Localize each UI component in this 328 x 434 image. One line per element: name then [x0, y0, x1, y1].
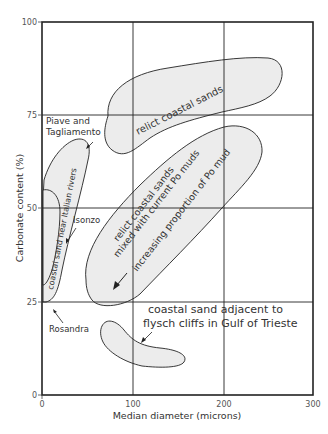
carbonate-vs-diameter-chart: 100 75 50 25 0 Carbonate content (%) 0 1… — [0, 0, 328, 434]
arrowhead-rosandra — [53, 309, 57, 313]
y-axis-title: Carbonate content (%) — [14, 154, 25, 262]
arrowhead-trieste — [141, 337, 146, 343]
y-tick-75: 75 — [27, 111, 37, 120]
label-rosandra: Rosandra — [49, 324, 89, 334]
label-piave: Piave and — [46, 116, 90, 126]
y-tick-50: 50 — [27, 204, 37, 213]
y-axis: 100 75 50 25 0 Carbonate content (%) — [14, 18, 42, 400]
x-axis: 0 100 200 300 Median diameter (microns) — [39, 395, 320, 421]
x-tick-0: 0 — [39, 400, 44, 409]
y-tick-0: 0 — [32, 391, 37, 400]
y-tick-100: 100 — [22, 18, 37, 27]
x-tick-100: 100 — [125, 400, 140, 409]
label-trieste-line1: coastal sand adjacent to — [148, 303, 283, 316]
x-tick-300: 300 — [305, 400, 320, 409]
x-tick-200: 200 — [216, 400, 231, 409]
label-trieste-line2: flysch cliffs in Gulf of Trieste — [143, 317, 298, 330]
arrow-rosandra — [54, 311, 63, 323]
label-isonzo: Isonzo — [73, 215, 100, 225]
label-tagliamento: Tagliamento — [45, 127, 101, 137]
y-tick-25: 25 — [27, 298, 37, 307]
x-axis-title: Median diameter (microns) — [113, 410, 242, 421]
